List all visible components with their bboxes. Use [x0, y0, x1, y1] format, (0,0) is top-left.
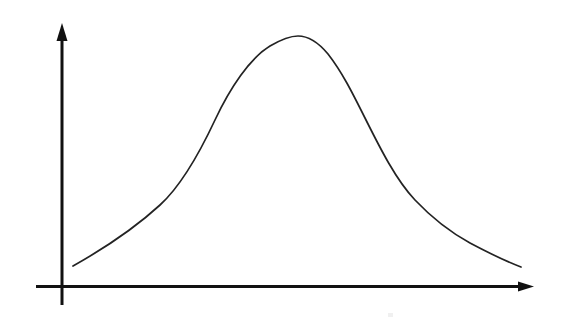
scan-artifact-speck: [388, 313, 393, 317]
x-axis-arrowhead-icon: [518, 282, 534, 292]
y-axis: [57, 23, 68, 305]
figure-canvas: [0, 0, 565, 328]
bell-curve-path: [73, 36, 521, 267]
x-axis: [36, 282, 534, 292]
y-axis-arrowhead-icon: [57, 23, 68, 41]
bell-curve-figure: Bell curve (normal distribution) sketch …: [0, 0, 565, 328]
